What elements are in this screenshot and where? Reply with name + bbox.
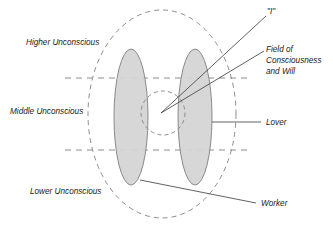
leader-line-self-i <box>161 16 266 113</box>
leader-line-field-of-consciousness <box>161 51 264 113</box>
label-field-of-consciousness-line2: Consciousness <box>266 56 322 65</box>
label-higher-unconscious: Higher Unconscious <box>26 38 99 47</box>
psychosynthesis-egg-diagram: Higher Unconscious Middle Unconscious Lo… <box>0 0 333 237</box>
outer-personality-boundary-ellipse <box>88 10 236 218</box>
subpersonality-lover-ellipse <box>178 49 212 185</box>
label-field-of-consciousness-line3: and Will <box>266 67 295 76</box>
subpersonality-worker-ellipse <box>114 49 148 185</box>
label-middle-unconscious: Middle Unconscious <box>10 107 83 116</box>
label-self-i: "I" <box>267 7 276 16</box>
label-lower-unconscious: Lower Unconscious <box>30 187 101 196</box>
label-worker: Worker <box>261 199 288 208</box>
diagram-canvas: Higher Unconscious Middle Unconscious Lo… <box>0 0 333 237</box>
label-lover: Lover <box>266 118 287 127</box>
label-field-of-consciousness-line1: Field of <box>266 45 294 54</box>
